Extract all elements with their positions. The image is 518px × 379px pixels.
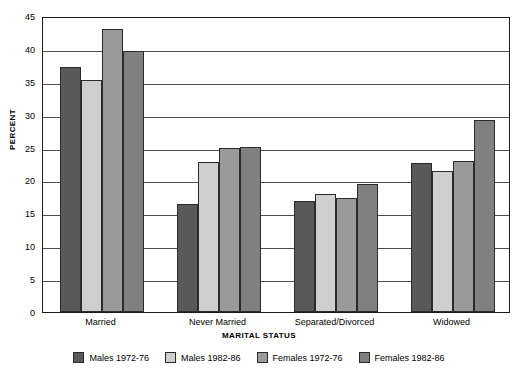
bar-group <box>411 18 495 312</box>
y-tick-label: 10 <box>10 242 40 252</box>
bar <box>357 184 378 312</box>
legend-item[interactable]: Males 1972-76 <box>73 352 149 363</box>
y-tick-label: 30 <box>10 111 40 121</box>
bar <box>294 201 315 312</box>
bar <box>336 198 357 312</box>
bar-chart: PERCENT 051015202530354045 MarriedNever … <box>0 0 518 379</box>
y-tick-label: 0 <box>10 308 40 318</box>
x-axis-title: MARITAL STATUS <box>0 331 518 340</box>
bar <box>219 148 240 312</box>
bar <box>411 163 432 312</box>
bar <box>453 161 474 312</box>
bar-series-container <box>43 18 509 312</box>
y-tick-label: 45 <box>10 12 40 22</box>
bar <box>81 80 102 312</box>
y-tick-label: 15 <box>10 209 40 219</box>
legend-swatch-icon <box>257 352 268 363</box>
y-axis-ticks: 051015202530354045 <box>10 0 40 379</box>
bar <box>177 204 198 312</box>
bar <box>60 67 81 312</box>
legend-label: Males 1972-76 <box>89 353 149 363</box>
bar-group <box>60 18 144 312</box>
bar <box>123 51 144 312</box>
bar-group <box>177 18 261 312</box>
bar-group <box>294 18 378 312</box>
legend-label: Females 1972-76 <box>273 353 343 363</box>
legend-item[interactable]: Females 1972-76 <box>257 352 343 363</box>
legend-swatch-icon <box>165 352 176 363</box>
legend-label: Females 1982-86 <box>375 353 445 363</box>
y-tick-label: 35 <box>10 78 40 88</box>
legend-item[interactable]: Females 1982-86 <box>359 352 445 363</box>
y-tick-label: 20 <box>10 176 40 186</box>
legend-item[interactable]: Males 1982-86 <box>165 352 241 363</box>
y-tick-label: 5 <box>10 275 40 285</box>
x-tick-label: Widowed <box>433 317 470 327</box>
bar <box>102 29 123 312</box>
legend-label: Males 1982-86 <box>181 353 241 363</box>
legend-swatch-icon <box>359 352 370 363</box>
bar <box>198 162 219 312</box>
bar <box>474 120 495 312</box>
y-tick-label: 40 <box>10 45 40 55</box>
y-tick-label: 25 <box>10 144 40 154</box>
bar <box>315 194 336 312</box>
legend-swatch-icon <box>73 352 84 363</box>
x-tick-label: Separated/Divorced <box>295 317 375 327</box>
x-tick-label: Married <box>85 317 116 327</box>
plot-area <box>42 17 510 313</box>
chart-legend: Males 1972-76Males 1982-86Females 1972-7… <box>0 352 518 363</box>
bar <box>432 171 453 312</box>
bar <box>240 147 261 312</box>
x-tick-label: Never Married <box>189 317 246 327</box>
